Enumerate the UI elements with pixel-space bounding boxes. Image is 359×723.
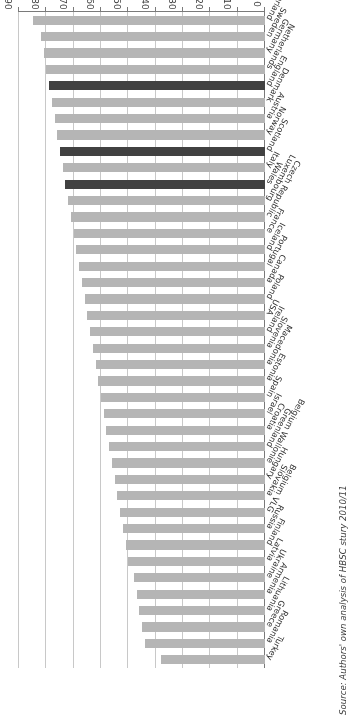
bar-row bbox=[19, 245, 265, 254]
axis-tick-label: 50 bbox=[113, 0, 123, 10]
bar bbox=[63, 163, 265, 172]
bar-row bbox=[19, 442, 265, 451]
bar-row bbox=[19, 426, 265, 435]
bar bbox=[109, 442, 265, 451]
bar bbox=[134, 573, 265, 582]
gridline bbox=[127, 12, 128, 668]
bar bbox=[85, 294, 265, 303]
bar-row bbox=[19, 278, 265, 287]
axis-tick bbox=[73, 7, 74, 12]
axis-tick bbox=[209, 7, 210, 12]
bar bbox=[115, 475, 265, 484]
bar-row bbox=[19, 590, 265, 599]
gridline bbox=[182, 12, 183, 668]
bar-row bbox=[19, 557, 265, 566]
bar bbox=[101, 393, 265, 402]
gridline bbox=[73, 12, 74, 668]
bar-row bbox=[19, 573, 265, 582]
axis-tick bbox=[264, 7, 265, 12]
bar bbox=[76, 245, 265, 254]
bar-row bbox=[19, 327, 265, 336]
bar bbox=[65, 180, 265, 189]
bar bbox=[52, 98, 265, 107]
bar bbox=[106, 426, 265, 435]
axis-tick bbox=[155, 7, 156, 12]
rotated-chart-canvas: 0102030405060708090 % SwitzerlandSwedenG… bbox=[0, 0, 359, 723]
value-axis-line bbox=[264, 12, 265, 668]
bar-row bbox=[19, 622, 265, 631]
axis-tick-label: 0 bbox=[252, 1, 262, 7]
axis-tick-label: 20 bbox=[195, 0, 205, 10]
axis-tick bbox=[127, 7, 128, 12]
bar bbox=[161, 655, 265, 664]
bar-row bbox=[19, 344, 265, 353]
bar bbox=[120, 508, 265, 517]
bar bbox=[57, 130, 265, 139]
gridline bbox=[209, 12, 210, 668]
bar-row bbox=[19, 524, 265, 533]
bar bbox=[117, 491, 265, 500]
bar bbox=[137, 590, 265, 599]
bar-row bbox=[19, 114, 265, 123]
bar bbox=[79, 262, 265, 271]
bar-row bbox=[19, 98, 265, 107]
axis-tick bbox=[18, 7, 19, 12]
bar-row bbox=[19, 196, 265, 205]
gridline bbox=[45, 12, 46, 668]
bar bbox=[139, 606, 265, 615]
bar-row bbox=[19, 32, 265, 41]
bar bbox=[128, 557, 265, 566]
bar-row bbox=[19, 81, 265, 90]
gridline bbox=[237, 12, 238, 668]
bar bbox=[68, 196, 265, 205]
bar-row bbox=[19, 16, 265, 25]
bar-row bbox=[19, 393, 265, 402]
bar bbox=[90, 327, 265, 336]
bar bbox=[104, 409, 265, 418]
bar bbox=[60, 147, 265, 156]
axis-tick bbox=[100, 7, 101, 12]
bar-row bbox=[19, 262, 265, 271]
bar-row bbox=[19, 360, 265, 369]
bar bbox=[112, 458, 265, 467]
bar-row bbox=[19, 508, 265, 517]
plot-area: SwitzerlandSwedenGermanyNetherlandsEngla… bbox=[19, 12, 265, 668]
bar bbox=[33, 16, 265, 25]
bar bbox=[46, 65, 265, 74]
axis-tick-label: 10 bbox=[222, 0, 232, 10]
axis-tick bbox=[237, 7, 238, 12]
bar-row bbox=[19, 48, 265, 57]
bar bbox=[55, 114, 265, 123]
axis-tick-label: 30 bbox=[167, 0, 177, 10]
bar-row bbox=[19, 491, 265, 500]
bar-row bbox=[19, 229, 265, 238]
bar-row bbox=[19, 130, 265, 139]
bar bbox=[87, 311, 265, 320]
bar-row bbox=[19, 147, 265, 156]
bar-row bbox=[19, 311, 265, 320]
axis-tick bbox=[45, 7, 46, 12]
category-axis-line bbox=[19, 11, 265, 12]
source-note: Source: Authors' own analysis of HBSC st… bbox=[338, 485, 348, 715]
bar bbox=[98, 376, 265, 385]
bar bbox=[41, 32, 265, 41]
bar-row bbox=[19, 376, 265, 385]
bar bbox=[44, 48, 265, 57]
bar-row bbox=[19, 212, 265, 221]
bar bbox=[82, 278, 265, 287]
bar-row bbox=[19, 294, 265, 303]
bar-row bbox=[19, 540, 265, 549]
axis-tick-label: 60 bbox=[85, 0, 95, 10]
bar-row bbox=[19, 65, 265, 74]
bar-row bbox=[19, 180, 265, 189]
bar bbox=[142, 622, 265, 631]
bar-row bbox=[19, 606, 265, 615]
gridline bbox=[18, 12, 19, 668]
bar-row bbox=[19, 475, 265, 484]
bar-row bbox=[19, 458, 265, 467]
chart-figure: 0102030405060708090 % SwitzerlandSwedenG… bbox=[0, 0, 359, 723]
bar-row bbox=[19, 639, 265, 648]
bar-row bbox=[19, 655, 265, 664]
axis-tick-label: 40 bbox=[140, 0, 150, 10]
axis-tick-label: 90 bbox=[3, 0, 13, 10]
